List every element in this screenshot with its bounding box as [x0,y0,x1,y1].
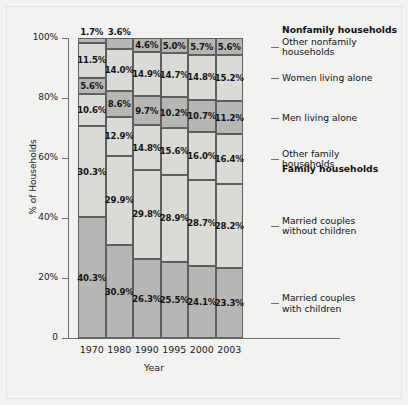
legend-item-label[interactable]: Women living alone [282,73,402,84]
bar-segment-label: 28.2% [215,221,244,231]
bar-segment-label: 23.3% [215,298,244,308]
bar-segment[interactable]: 5.6% [216,38,244,55]
bar-column[interactable]: 23.3%28.2%16.4%11.2%15.2%5.6% [216,38,244,338]
bar-segment[interactable]: 29.9% [106,156,134,246]
bar-segment[interactable]: 10.6% [78,94,106,126]
plot-area: 40.3%30.3%10.6%5.6%11.5%1.7%30.9%29.9%12… [0,0,408,405]
bar-segment[interactable]: 26.3% [133,259,161,338]
legend-connector-dash [271,303,279,304]
bar-segment-label: 14.7% [160,70,189,80]
legend-connector-dash [271,159,279,160]
bar-segment[interactable]: 28.7% [188,180,216,266]
bar-segment[interactable]: 3.6% [106,38,134,49]
bar-segment-label: 40.3% [77,273,106,283]
legend-connector-dash [271,118,279,119]
bar-segment-label: 24.1% [187,297,216,307]
bar-column[interactable]: 40.3%30.3%10.6%5.6%11.5%1.7% [78,38,106,338]
bar-segment-label: 9.7% [135,106,158,116]
legend-connector-dash [271,47,279,48]
bar-segment-label: 30.3% [77,167,106,177]
legend-connector-dash [271,78,279,79]
legend-item-label[interactable]: Other nonfamily households [282,37,402,58]
legend-item-label[interactable]: Married couples with children [282,293,402,314]
bar-segment[interactable]: 30.3% [78,126,106,217]
bar-segment[interactable]: 14.0% [106,49,134,91]
legend-item-label[interactable]: Men living alone [282,113,402,124]
bar-segment[interactable]: 23.3% [216,268,244,338]
bar-segment[interactable]: 30.9% [106,245,134,338]
bar-segment[interactable]: 5.6% [78,78,106,95]
bar-segment-label: 11.5% [77,55,106,65]
bar-segment-label: 8.6% [108,99,131,109]
legend-item-label[interactable]: Married couples without children [282,216,402,237]
bar-segment[interactable]: 12.9% [106,117,134,156]
bar-segment[interactable]: 25.5% [161,262,189,339]
bar-segment[interactable]: 11.2% [216,101,244,135]
bar-segment[interactable]: 1.7% [78,38,106,43]
bar-segment-label: 25.5% [160,295,189,305]
bar-segment-label: 14.8% [187,72,216,82]
bar-segment[interactable]: 28.2% [216,184,244,269]
bar-segment-label: 10.2% [160,108,189,118]
bar-segment[interactable]: 15.6% [161,128,189,175]
bar-segment-label: 14.8% [132,143,161,153]
bar-column[interactable]: 25.5%28.9%15.6%10.2%14.7%5.0% [161,38,189,338]
bar-segment[interactable]: 14.8% [188,55,216,99]
chart-figure: % of Households Year 020%40%60%80%100% 1… [0,0,408,405]
bar-segment-label: 5.7% [190,42,213,52]
bar-segment[interactable]: 11.5% [78,43,106,78]
bar-segment-label: 15.6% [160,146,189,156]
bar-segment-label: 4.6% [135,40,158,50]
bar-segment[interactable]: 4.6% [133,38,161,52]
bar-segment-label: 10.6% [77,105,106,115]
bar-segment-label: 12.9% [105,131,134,141]
bar-segment[interactable]: 16.0% [188,132,216,180]
bar-segment-label: 28.7% [187,218,216,228]
bar-segment-label: 16.0% [187,151,216,161]
bar-segment-label: 30.9% [105,287,134,297]
legend-connector-dash [271,226,279,227]
bar-segment-label: 16.4% [215,154,244,164]
bar-segment-label: 3.6% [108,27,131,37]
bar-segment[interactable]: 10.7% [188,100,216,132]
bar-segment-label: 10.7% [187,111,216,121]
bar-segment-label: 5.6% [218,42,241,52]
bar-segment[interactable]: 29.8% [133,170,161,259]
bar-segment[interactable]: 9.7% [133,96,161,125]
bar-segment[interactable]: 15.2% [216,55,244,101]
bar-segment-label: 11.2% [215,113,244,123]
bar-segment[interactable]: 14.9% [133,52,161,97]
bar-segment[interactable]: 40.3% [78,217,106,338]
bar-segment-label: 28.9% [160,213,189,223]
bar-column[interactable]: 30.9%29.9%12.9%8.6%14.0%3.6% [106,38,134,338]
bar-column[interactable]: 24.1%28.7%16.0%10.7%14.8%5.7% [188,38,216,338]
bar-segment[interactable]: 14.8% [133,125,161,169]
bar-segment-label: 5.6% [80,81,103,91]
bar-segment[interactable]: 16.4% [216,134,244,183]
bar-segment[interactable]: 5.7% [188,38,216,55]
legend-group-heading: Nonfamily households [282,24,397,35]
bar-segment[interactable]: 10.2% [161,97,189,128]
bar-segment-label: 5.0% [163,41,186,51]
bar-segment-label: 15.2% [215,73,244,83]
bar-column[interactable]: 26.3%29.8%14.8%9.7%14.9%4.6% [133,38,161,338]
legend-item-label[interactable]: Other family households [282,149,402,170]
bar-segment[interactable]: 8.6% [106,91,134,117]
bar-segment-label: 14.9% [132,69,161,79]
bar-segment[interactable]: 28.9% [161,175,189,262]
bar-segment[interactable]: 24.1% [188,266,216,338]
bar-segment[interactable]: 14.7% [161,53,189,97]
bar-segment[interactable]: 5.0% [161,38,189,53]
bar-segment-label: 14.0% [105,65,134,75]
bar-segment-label: 26.3% [132,294,161,304]
bar-segment-label: 29.8% [132,209,161,219]
bar-segment-label: 1.7% [80,27,103,37]
bar-segment-label: 29.9% [105,195,134,205]
